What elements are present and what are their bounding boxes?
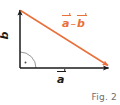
vector-a-minus-b-label: a–b xyxy=(62,18,85,29)
vector-a-label: a xyxy=(57,74,64,85)
right-angle-arc xyxy=(20,52,36,68)
vector-diagram-figure: b a a–b Fig. 2 xyxy=(0,0,120,105)
figure-caption: Fig. 2 xyxy=(92,92,117,102)
vector-a-letter: a xyxy=(57,74,64,85)
vector-b-letter: b xyxy=(0,32,10,40)
vector-a-minus-b-second-letter: b xyxy=(77,18,85,29)
right-angle-dot xyxy=(25,62,27,64)
vector-diagram-canvas xyxy=(0,0,120,105)
minus-operator: – xyxy=(69,17,77,30)
vector-b-label: b xyxy=(0,32,10,40)
vector-a-minus-b-first-letter: a xyxy=(62,18,69,29)
